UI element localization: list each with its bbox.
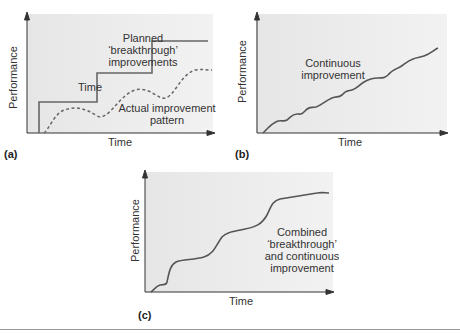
combined-annotation-line-4: improvement	[262, 262, 342, 274]
diagram-canvas	[0, 0, 460, 333]
panel-c-x-axis-label: Time	[221, 295, 261, 307]
planned-annotation-line-3: improvements	[88, 56, 198, 68]
bottom-rule	[0, 329, 460, 330]
planned-annotation: Planned	[98, 32, 188, 44]
panel-a-tag: (a)	[4, 148, 17, 160]
actual-annotation-line-1: Actual improvement	[112, 102, 222, 114]
planned-annotation-line-1: Planned	[98, 32, 188, 44]
panel-b-tag: (b)	[235, 148, 249, 160]
combined-annotation-line-3: and continuous	[257, 250, 347, 262]
continuous-annotation-line-1: Continuous	[298, 57, 368, 69]
panel-a-y-axis-label: Performance	[7, 46, 19, 109]
panel-b-x-axis-label: Time	[330, 136, 370, 148]
continuous-annotation-line-2: improvement	[293, 69, 373, 81]
panel-a-x-axis-label: Time	[70, 81, 110, 93]
panel-b-y-axis-label: Performance	[236, 40, 248, 103]
panel-a-time-label: Time	[100, 136, 140, 148]
panel-c-tag: (c)	[138, 309, 151, 321]
actual-annotation-line-2: pattern	[112, 114, 222, 126]
panel-c-y-axis-label: Performance	[129, 199, 141, 262]
planned-annotation-line-2: ‘breakthrough’	[88, 44, 198, 56]
combined-annotation-line-2: ‘breakthrough’	[262, 238, 342, 250]
combined-annotation-line-1: Combined	[262, 226, 342, 238]
